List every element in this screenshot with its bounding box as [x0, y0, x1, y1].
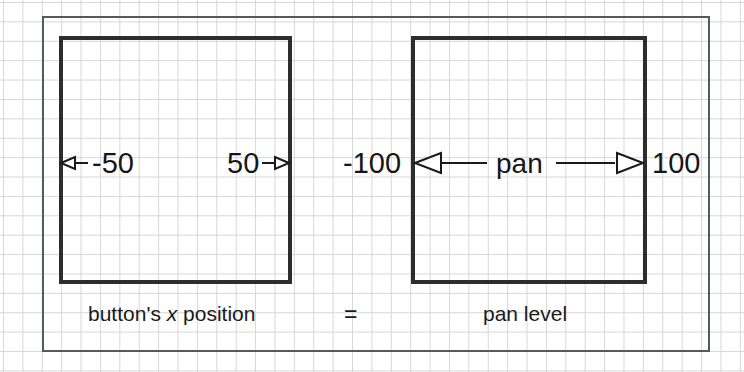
equals-sign: = [344, 303, 357, 326]
right-panel-caption: pan level [483, 303, 567, 324]
left-panel-caption-italic: x [167, 302, 178, 325]
left-panel-right-value: 50 [227, 149, 259, 178]
right-panel-left-value: -100 [343, 149, 401, 178]
left-panel-caption-suffix: position [177, 302, 255, 325]
left-panel-left-value: -50 [92, 149, 134, 178]
pan-span-label: pan [496, 150, 543, 178]
right-panel-right-value: 100 [652, 149, 700, 178]
figure-canvas: -50 50 -100 pan 100 button's x position … [0, 0, 744, 372]
left-panel-caption: button's x position [88, 303, 255, 324]
left-panel-caption-prefix: button's [88, 302, 167, 325]
